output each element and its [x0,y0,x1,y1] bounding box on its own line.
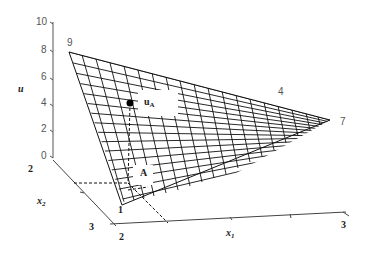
A-label: A [140,167,148,178]
z-tick-6: 6 [41,71,47,82]
x2-tick-3: 3 [89,221,94,232]
point-uA [127,100,134,107]
vertex-7-label: 7 [340,116,346,127]
x1-axis-label: x1 [225,227,235,240]
floor-axes [53,160,349,226]
vertex-9-label: 9 [67,37,73,48]
x2-tick-2: 2 [28,163,33,174]
z-tick-10: 10 [36,16,48,27]
chart-canvas: 10 8 6 4 2 0 u 2 3 2 3 x2 x1 uA A 9 4 7 … [0,0,366,255]
z-tick-8: 8 [41,44,47,55]
z-tick-4: 4 [41,97,47,108]
surface-mesh [69,52,330,202]
z-tick-0: 0 [41,150,47,161]
z-tick-2: 2 [41,123,47,134]
x1-tick-2: 2 [119,231,124,242]
vertex-4-label: 4 [278,86,284,97]
u-axis-label: u [18,83,24,94]
u-axis [50,22,53,158]
x2-axis-label: x2 [36,195,46,208]
x1-tick-3: 3 [341,219,346,230]
vertex-1-label: 1 [118,204,123,215]
